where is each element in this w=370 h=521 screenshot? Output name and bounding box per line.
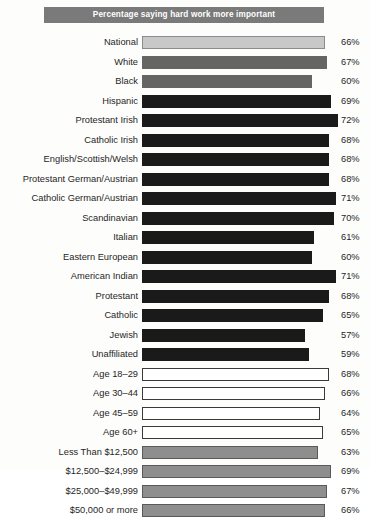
bar-track bbox=[142, 36, 338, 49]
bar bbox=[142, 407, 320, 420]
chart-row: Protestant Irish72% bbox=[0, 111, 370, 131]
chart-row: Unaffiliated59% bbox=[0, 345, 370, 365]
chart-row: $25,000–$49,99967% bbox=[0, 482, 370, 502]
row-category-label: Eastern European bbox=[63, 248, 138, 268]
row-category-label: Hispanic bbox=[102, 92, 138, 112]
bar bbox=[142, 114, 338, 127]
row-value-label: 67% bbox=[341, 53, 360, 73]
bar-track bbox=[142, 329, 338, 342]
bar-track bbox=[142, 153, 338, 166]
row-value-label: 69% bbox=[341, 92, 360, 112]
chart-row: Scandinavian70% bbox=[0, 209, 370, 229]
row-value-label: 66% bbox=[341, 33, 360, 53]
chart-row: Less Than $12,50063% bbox=[0, 443, 370, 463]
chart-row: Italian61% bbox=[0, 228, 370, 248]
bar-track bbox=[142, 134, 338, 147]
chart-row: Catholic German/Austrian71% bbox=[0, 189, 370, 209]
bar-track bbox=[142, 56, 338, 69]
bar-track bbox=[142, 212, 338, 225]
chart-row: White67% bbox=[0, 53, 370, 73]
row-value-label: 63% bbox=[341, 443, 360, 463]
row-value-label: 68% bbox=[341, 287, 360, 307]
bar bbox=[142, 56, 327, 69]
row-category-label: White bbox=[114, 53, 138, 73]
row-value-label: 64% bbox=[341, 404, 360, 424]
row-value-label: 69% bbox=[341, 462, 360, 482]
bar-track bbox=[142, 95, 338, 108]
row-value-label: 72% bbox=[341, 111, 360, 131]
bar-track bbox=[142, 504, 338, 517]
row-value-label: 71% bbox=[341, 267, 360, 287]
chart-row: Hispanic69% bbox=[0, 92, 370, 112]
chart-row: Catholic Irish68% bbox=[0, 131, 370, 151]
chart-row: Catholic65% bbox=[0, 306, 370, 326]
row-category-label: Unaffiliated bbox=[92, 345, 138, 365]
row-category-label: National bbox=[104, 33, 138, 53]
bar bbox=[142, 329, 305, 342]
bar-track bbox=[142, 309, 338, 322]
bar bbox=[142, 153, 329, 166]
bar bbox=[142, 173, 329, 186]
chart-row: Age 18–2968% bbox=[0, 365, 370, 385]
row-category-label: Age 45–59 bbox=[93, 404, 138, 424]
row-value-label: 57% bbox=[341, 326, 360, 346]
bar bbox=[142, 36, 325, 49]
bar-track bbox=[142, 407, 338, 420]
row-value-label: 59% bbox=[341, 345, 360, 365]
chart-row: Age 45–5964% bbox=[0, 404, 370, 424]
chart-row: $50,000 or more66% bbox=[0, 501, 370, 521]
row-value-label: 68% bbox=[341, 150, 360, 170]
bar-track bbox=[142, 387, 338, 400]
bar bbox=[142, 504, 325, 517]
row-category-label: Age 30–44 bbox=[93, 384, 138, 404]
bar-track bbox=[142, 173, 338, 186]
row-category-label: Age 18–29 bbox=[93, 365, 138, 385]
bar-track bbox=[142, 114, 338, 127]
chart-row: Eastern European60% bbox=[0, 248, 370, 268]
row-value-label: 66% bbox=[341, 384, 360, 404]
chart-rows: National66%White67%Black60%Hispanic69%Pr… bbox=[0, 33, 370, 521]
chart-row: Age 30–4466% bbox=[0, 384, 370, 404]
chart-row: English/Scottish/Welsh68% bbox=[0, 150, 370, 170]
row-value-label: 68% bbox=[341, 131, 360, 151]
bar-track bbox=[142, 75, 338, 88]
chart-row: Jewish57% bbox=[0, 326, 370, 346]
row-value-label: 66% bbox=[341, 501, 360, 521]
row-category-label: Italian bbox=[113, 228, 138, 248]
chart-title: Percentage saying hard work more importa… bbox=[93, 11, 275, 19]
bar bbox=[142, 270, 336, 283]
bar-track bbox=[142, 485, 338, 498]
row-category-label: Less Than $12,500 bbox=[59, 443, 138, 463]
bar-track bbox=[142, 348, 338, 361]
chart-row: Black60% bbox=[0, 72, 370, 92]
bar bbox=[142, 368, 329, 381]
row-value-label: 65% bbox=[341, 306, 360, 326]
row-category-label: Protestant bbox=[96, 287, 138, 307]
row-value-label: 70% bbox=[341, 209, 360, 229]
bar bbox=[142, 134, 329, 147]
row-value-label: 71% bbox=[341, 189, 360, 209]
bar bbox=[142, 485, 327, 498]
row-value-label: 68% bbox=[341, 365, 360, 385]
chart-title-band: Percentage saying hard work more importa… bbox=[44, 7, 324, 23]
bar bbox=[142, 251, 312, 264]
row-category-label: $12,500–$24,999 bbox=[66, 462, 138, 482]
bar bbox=[142, 192, 336, 205]
bar-track bbox=[142, 446, 338, 459]
row-value-label: 60% bbox=[341, 72, 360, 92]
chart-row: Protestant68% bbox=[0, 287, 370, 307]
bar bbox=[142, 387, 325, 400]
bar bbox=[142, 348, 309, 361]
row-category-label: Age 60+ bbox=[103, 423, 138, 443]
chart-row: National66% bbox=[0, 33, 370, 53]
bar-track bbox=[142, 290, 338, 303]
row-category-label: American Indian bbox=[71, 267, 138, 287]
bar-track bbox=[142, 251, 338, 264]
row-category-label: Catholic bbox=[104, 306, 138, 326]
bar bbox=[142, 446, 318, 459]
bar-track bbox=[142, 192, 338, 205]
row-value-label: 65% bbox=[341, 423, 360, 443]
row-category-label: English/Scottish/Welsh bbox=[44, 150, 138, 170]
row-category-label: $25,000–$49,999 bbox=[66, 482, 138, 502]
